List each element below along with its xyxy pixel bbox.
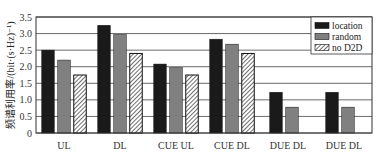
y-tick-label: 0 <box>27 128 32 139</box>
x-tick-label: UL <box>57 140 70 151</box>
legend-swatch <box>315 45 329 51</box>
legend-swatch <box>315 23 329 29</box>
y-tick-label: 2.5 <box>20 45 33 56</box>
x-tick-label: CUE UL <box>158 140 194 151</box>
y-tick-label: 0.5 <box>20 111 33 122</box>
y-tick-label: 2.0 <box>20 61 33 72</box>
bar-random <box>286 107 299 133</box>
x-tick-label: CUE DL <box>214 140 250 151</box>
bar-chart: 00.51.01.52.02.53.03.5ULDLCUE ULCUE DLDU… <box>0 0 380 156</box>
y-tick-label: 1.5 <box>20 78 33 89</box>
bar-random <box>226 44 239 133</box>
y-tick-label: 3.5 <box>20 12 33 23</box>
bar-no-d2d <box>242 53 255 133</box>
bar-no-d2d <box>130 53 143 133</box>
legend-label: random <box>332 32 362 42</box>
bar-random <box>342 107 355 133</box>
legend-swatch <box>315 34 329 40</box>
bar-location <box>326 92 339 133</box>
bar-no-d2d <box>74 75 87 133</box>
bar-location <box>154 64 167 133</box>
bar-random <box>114 35 127 133</box>
x-tick-label: DUE DL <box>326 140 362 151</box>
bar-random <box>58 60 71 133</box>
x-tick-label: DUE DL <box>270 140 306 151</box>
bar-location <box>270 92 283 133</box>
y-tick-label: 1.0 <box>20 94 33 105</box>
bar-no-d2d <box>186 75 199 133</box>
bar-random <box>170 68 183 133</box>
legend-label: location <box>332 21 363 31</box>
x-tick-label: DL <box>113 140 126 151</box>
bars <box>42 25 355 133</box>
y-tick-label: 3.0 <box>20 28 33 39</box>
legend-label: no D2D <box>332 43 362 53</box>
bar-location <box>98 25 111 133</box>
bar-location <box>210 39 223 133</box>
bar-location <box>42 50 55 133</box>
legend: locationrandomno D2D <box>311 17 372 54</box>
